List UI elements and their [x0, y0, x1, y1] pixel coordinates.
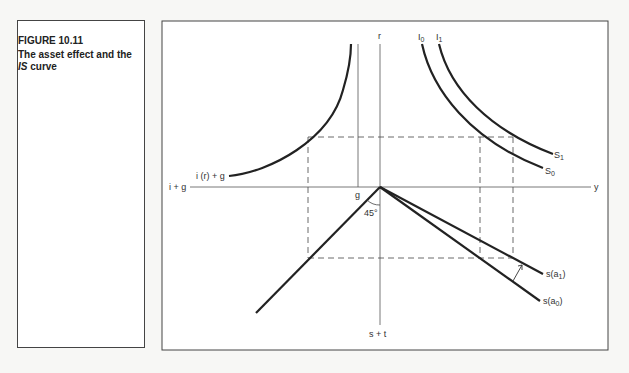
angle-label: 45° [364, 208, 378, 218]
investment-curve-label: i (r) + g [196, 171, 225, 181]
y-axis-label: y [594, 182, 599, 192]
sa1-label: s(a1) [546, 269, 565, 280]
g-label: g [355, 190, 360, 200]
st-axis-label: s + t [369, 329, 387, 339]
diagram-frame [162, 21, 608, 350]
is-curve-diagram: r s + t i + g y i (r) + g g 45° I0 I1 S1… [0, 0, 629, 373]
r-axis-label: r [378, 31, 381, 41]
sa0-label: s(a0) [543, 296, 562, 307]
ig-axis-label: i + g [169, 182, 186, 192]
